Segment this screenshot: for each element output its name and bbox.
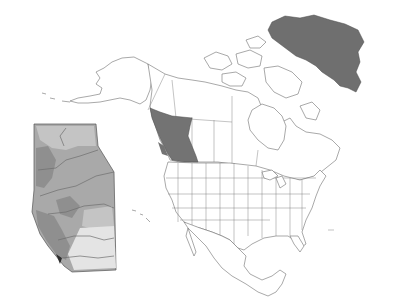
alaska-region (42, 57, 152, 104)
hawaii-islands (132, 210, 150, 222)
north-america-map (0, 0, 396, 306)
alberta-inset (32, 124, 116, 272)
